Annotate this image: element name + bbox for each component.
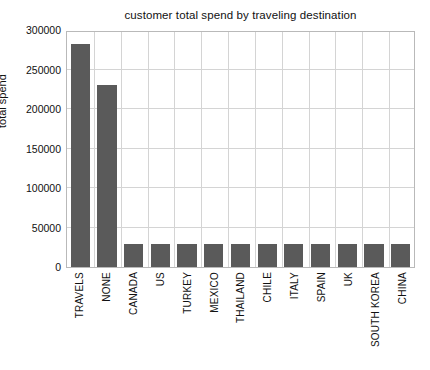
bar-slot <box>227 32 254 267</box>
bar[interactable] <box>338 244 357 267</box>
x-tick-slot: CHILE <box>254 270 281 368</box>
bar-slot <box>67 32 94 267</box>
y-tick-label: 50000 <box>4 222 61 234</box>
x-tick-slot: ITALY <box>281 270 308 368</box>
bar[interactable] <box>284 244 303 267</box>
x-tick-slot: CANADA <box>120 270 147 368</box>
bar-slot <box>254 32 281 267</box>
bar[interactable] <box>71 44 90 267</box>
bar-slot <box>174 32 201 267</box>
bar-slot <box>281 32 308 267</box>
bar[interactable] <box>97 85 116 267</box>
bar[interactable] <box>204 244 223 267</box>
bar-chart-figure: customer total spend by traveling destin… <box>0 0 430 370</box>
x-tick-label: NONE <box>101 272 112 302</box>
x-tick-slot: MEXICO <box>200 270 227 368</box>
x-tick-slot: TRAVELS <box>66 270 93 368</box>
bar[interactable] <box>177 244 196 267</box>
x-tick-label: MEXICO <box>208 272 219 313</box>
x-tick-slot: NONE <box>93 270 120 368</box>
bar-slot <box>120 32 147 267</box>
bar-slot <box>147 32 174 267</box>
y-tick-label: 300000 <box>4 24 61 36</box>
x-tick-slot: SOUTH KOREA <box>361 270 388 368</box>
bar-slot <box>387 32 414 267</box>
bars-layer <box>67 32 414 267</box>
bar[interactable] <box>124 244 143 267</box>
bar-slot <box>200 32 227 267</box>
bar[interactable] <box>311 244 330 267</box>
x-tick-label: CHILE <box>262 272 273 302</box>
bar-slot <box>361 32 388 267</box>
x-tick-slot: SPAIN <box>308 270 335 368</box>
y-tick-label: 100000 <box>4 182 61 194</box>
bar-slot <box>307 32 334 267</box>
y-axis-label: total spend <box>0 74 8 128</box>
y-tick-label: 250000 <box>4 64 61 76</box>
x-tick-label: SOUTH KOREA <box>369 272 380 347</box>
x-tick-label: TRAVELS <box>74 272 85 318</box>
x-tick-slot: US <box>147 270 174 368</box>
y-tick-label: 200000 <box>4 103 61 115</box>
x-tick-slot: TURKEY <box>173 270 200 368</box>
x-tick-label: SPAIN <box>316 272 327 302</box>
x-tick-label: TURKEY <box>181 272 192 314</box>
bar[interactable] <box>231 244 250 267</box>
x-axis-tick-labels: TRAVELSNONECANADAUSTURKEYMEXICOTHAILANDC… <box>66 270 415 368</box>
bar-slot <box>334 32 361 267</box>
plot-area <box>66 31 415 268</box>
x-tick-label: CANADA <box>128 272 139 315</box>
x-tick-label: US <box>154 272 165 286</box>
bar[interactable] <box>391 244 410 267</box>
chart-title: customer total spend by traveling destin… <box>66 9 415 21</box>
x-tick-slot: UK <box>334 270 361 368</box>
bar[interactable] <box>258 244 277 267</box>
bar-slot <box>94 32 121 267</box>
x-tick-slot: CHINA <box>388 270 415 368</box>
x-tick-slot: THAILAND <box>227 270 254 368</box>
bar[interactable] <box>364 244 383 267</box>
x-tick-label: THAILAND <box>235 272 246 323</box>
y-tick-label: 150000 <box>4 143 61 155</box>
y-tick-label: 0 <box>4 261 61 273</box>
x-tick-label: UK <box>342 272 353 286</box>
x-tick-label: ITALY <box>289 272 300 299</box>
bar[interactable] <box>151 244 170 267</box>
x-tick-label: CHINA <box>396 272 407 304</box>
